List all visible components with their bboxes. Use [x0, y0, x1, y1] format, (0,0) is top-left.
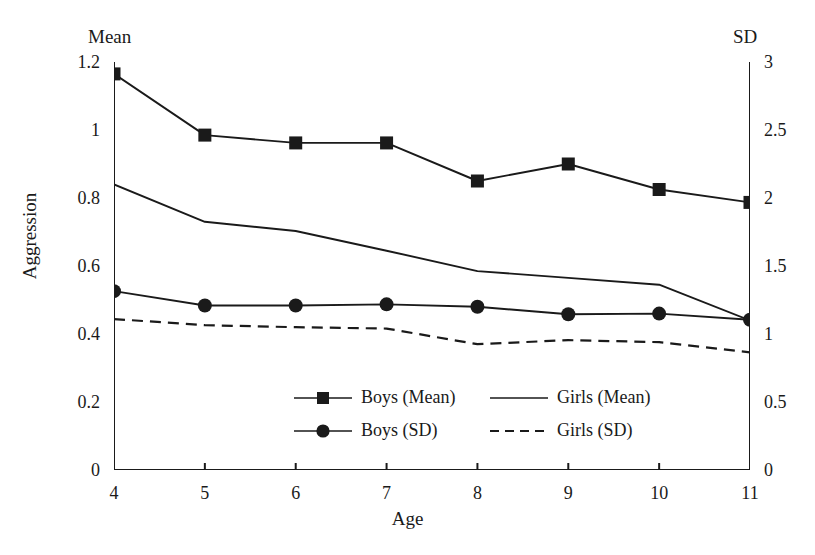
y-tick-label: 0 [91, 460, 100, 481]
y2-tick-label: 0.5 [764, 392, 787, 413]
chart-figure: Mean SD Aggression Age 00.20.40.60.811.2… [0, 0, 815, 555]
square-marker-icon [294, 389, 352, 407]
y-tick-label: 0.6 [78, 256, 101, 277]
legend-row: Boys (Mean) Girls (Mean) [294, 381, 694, 414]
circle-marker-icon [294, 422, 352, 440]
x-tick-label: 5 [200, 483, 209, 504]
y-tick-label: 0.4 [78, 324, 101, 345]
x-tick-label: 11 [741, 483, 758, 504]
legend-row: Boys (SD) Girls (SD) [294, 414, 694, 447]
x-axis-label: Age [0, 508, 815, 530]
x-tick-label: 9 [564, 483, 573, 504]
chart-legend: Boys (Mean) Girls (Mean) Bo [294, 381, 694, 447]
legend-label: Boys (Mean) [361, 387, 455, 408]
legend-item-boys-sd: Boys (SD) [294, 420, 490, 441]
y-axis-label: Aggression [19, 146, 41, 326]
legend-item-girls-mean: Girls (Mean) [490, 387, 650, 408]
legend-label: Girls (SD) [557, 420, 633, 441]
legend-item-girls-sd: Girls (SD) [490, 420, 633, 441]
y-tick-label: 1 [91, 120, 100, 141]
x-tick-label: 7 [382, 483, 391, 504]
y2-tick-label: 1 [764, 324, 773, 345]
y2-tick-label: 2.5 [764, 120, 787, 141]
solid-line-icon [490, 389, 548, 407]
y-tick-label: 1.2 [78, 52, 101, 73]
legend-label: Girls (Mean) [557, 387, 650, 408]
y2-tick-label: 1.5 [764, 256, 787, 277]
y2-tick-label: 0 [764, 460, 773, 481]
y2-tick-label: 2 [764, 188, 773, 209]
right-axis-header: SD [733, 26, 757, 48]
x-tick-label: 10 [650, 483, 668, 504]
y2-tick-label: 3 [764, 52, 773, 73]
dashed-line-icon [490, 422, 548, 440]
left-axis-header: Mean [88, 26, 131, 48]
x-tick-label: 4 [110, 483, 119, 504]
y-tick-label: 0.2 [78, 392, 101, 413]
x-tick-label: 6 [291, 483, 300, 504]
legend-item-boys-mean: Boys (Mean) [294, 387, 490, 408]
y-tick-label: 0.8 [78, 188, 101, 209]
legend-label: Boys (SD) [361, 420, 438, 441]
x-tick-label: 8 [473, 483, 482, 504]
